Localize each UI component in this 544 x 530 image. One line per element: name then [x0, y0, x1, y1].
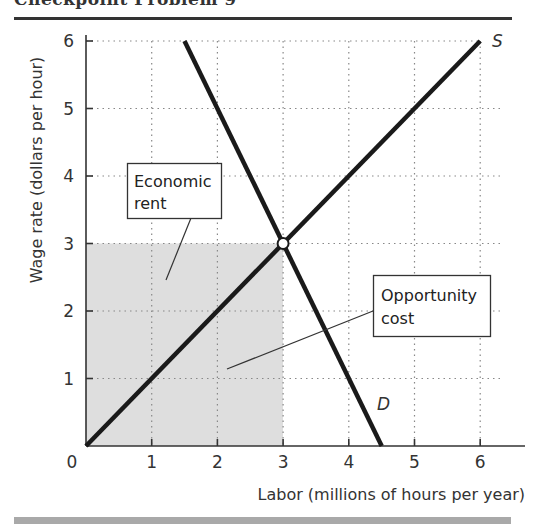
x-tick-6: 6: [475, 452, 486, 472]
y-tick-2: 2: [63, 301, 74, 321]
y-axis-title: Wage rate (dollars per hour): [27, 57, 46, 284]
origin-label: 0: [67, 452, 78, 472]
opportunity-cost-line2: cost: [381, 309, 414, 328]
y-tick-3: 3: [63, 234, 74, 254]
economic-rent-line1: Economic: [134, 172, 211, 191]
demand-label: D: [377, 394, 390, 414]
x-tick-3: 3: [278, 452, 289, 472]
supply-label: S: [492, 31, 503, 51]
y-tick-6: 6: [63, 31, 74, 51]
x-tick-4: 4: [343, 452, 354, 472]
x-tick-1: 1: [146, 452, 157, 472]
y-tick-1: 1: [63, 369, 74, 389]
x-tick-labels: 0 1 2 3 4 5 6: [67, 452, 486, 472]
opportunity-cost-line1: Opportunity: [381, 286, 477, 305]
x-tick-2: 2: [212, 452, 223, 472]
economic-rent-line2: rent: [134, 194, 166, 213]
y-tick-4: 4: [63, 166, 74, 186]
y-tick-5: 5: [63, 99, 74, 119]
x-tick-5: 5: [409, 452, 420, 472]
y-tick-labels: 1 2 3 4 5 6: [63, 31, 74, 389]
x-axis-title: Labor (millions of hours per year): [258, 485, 525, 504]
chart: 1 2 3 4 5 6 0 1 2 3 4 5 6 Labor (million…: [0, 0, 544, 530]
equilibrium-point: [278, 238, 289, 249]
bottom-bar: [14, 517, 511, 524]
